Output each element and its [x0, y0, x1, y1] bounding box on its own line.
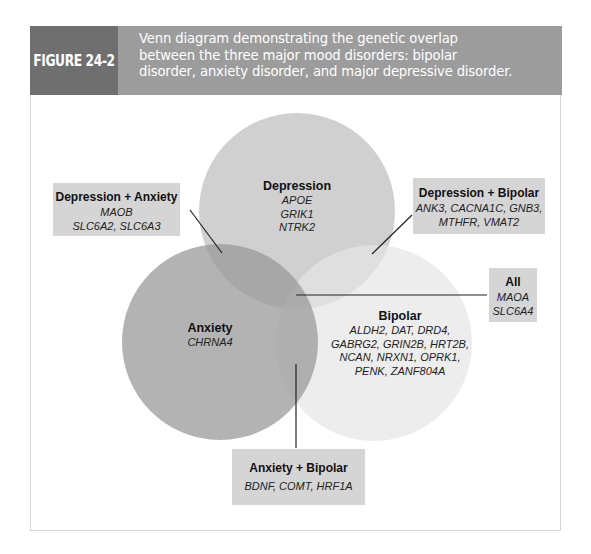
gene-line: PENK, ZANF804A: [320, 365, 480, 379]
gene-line: GABRG2, GRIN2B, HRT2B,: [320, 338, 480, 352]
gene-line: MTHFR, VMAT2: [413, 215, 545, 229]
gene-line: BDNF, COMT, HRF1A: [232, 479, 365, 493]
gene-line: MAOA: [489, 290, 537, 304]
gene: GRIK1: [247, 208, 347, 222]
depression-label: Depression APOE GRIK1 NTRK2: [247, 178, 347, 235]
anxiety-label: Anxiety CHRNA4: [150, 320, 270, 350]
gene-line: ANK3, CACNA1C, GNB3,: [413, 201, 545, 215]
overlap-title: Anxiety + Bipolar: [232, 461, 365, 476]
gene-line: NCAN, NRXN1, OPRK1,: [320, 351, 480, 365]
overlap-all-box: All MAOA SLC6A4: [489, 268, 537, 322]
anxiety-title: Anxiety: [150, 320, 270, 336]
gene-line: MAOB: [53, 205, 180, 219]
bipolar-title: Bipolar: [320, 308, 480, 324]
bipolar-label: Bipolar ALDH2, DAT, DRD4, GABRG2, GRIN2B…: [320, 308, 480, 378]
gene: APOE: [247, 194, 347, 208]
overlap-title: All: [489, 275, 537, 290]
gene: NTRK2: [247, 221, 347, 235]
overlap-depression-anxiety-box: Depression + Anxiety MAOB SLC6A2, SLC6A3: [53, 183, 180, 236]
gene-line: ALDH2, DAT, DRD4,: [320, 324, 480, 338]
gene-line: SLC6A2, SLC6A3: [53, 219, 180, 233]
gene-line: SLC6A4: [489, 304, 537, 318]
overlap-depression-bipolar-box: Depression + Bipolar ANK3, CACNA1C, GNB3…: [413, 178, 545, 234]
depression-title: Depression: [247, 178, 347, 194]
overlap-title: Depression + Bipolar: [413, 186, 545, 201]
gene: CHRNA4: [150, 336, 270, 350]
overlap-anxiety-bipolar-box: Anxiety + Bipolar BDNF, COMT, HRF1A: [232, 449, 365, 505]
overlap-title: Depression + Anxiety: [53, 190, 180, 205]
